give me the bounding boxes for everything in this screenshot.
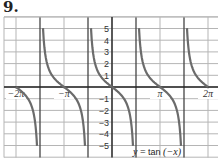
y-tick-label: 3 [104,47,109,57]
y-tick-label: −3 [99,118,109,128]
y-tick-label: 2 [104,59,109,69]
y-tick-label: −1 [99,94,109,104]
equation-label: y = tan (−x) [132,146,182,158]
curve-branch [187,28,208,87]
y-tick-label: 4 [104,36,109,46]
x-tick-label: 2π [203,88,214,99]
y-tick-label: −4 [99,129,109,139]
y-tick-label: 1 [104,71,109,81]
y-tick-label: −5 [99,141,109,151]
tangent-graph: 54321−1−2−3−4−5−2π−ππ2π y = tan (−x) [0,0,218,165]
y-tick-label: 5 [104,24,109,34]
y-tick-label: −2 [99,106,109,116]
